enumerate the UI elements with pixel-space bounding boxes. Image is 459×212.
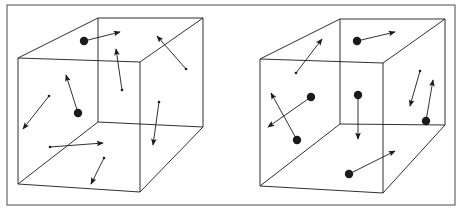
cubes-diagram [0,0,459,212]
particle-large [354,91,362,99]
particle-large [345,170,353,178]
right-cube-edge [383,125,445,193]
particle-small [48,95,51,98]
left-cube-edge [18,122,98,184]
particle-small [121,89,124,92]
velocity-arrow-icon [268,97,311,127]
velocity-arrow-icon [23,96,49,129]
particle-large [307,93,315,101]
right-cube-edge [260,19,340,59]
particle-large [353,37,361,45]
left-cube-back-face [98,18,203,127]
right-cube-back-face [340,19,445,125]
right-cube-edge [383,19,445,63]
particle-large [293,136,301,144]
particle-small [185,68,188,71]
velocity-arrow-icon [357,32,395,41]
particle-small [419,70,422,73]
particle-large [422,117,430,125]
particle-large [80,37,88,45]
velocity-arrow-icon [349,151,395,174]
velocity-arrow-icon [426,80,433,121]
velocity-arrow-icon [410,71,420,106]
velocity-arrow-icon [116,49,122,90]
particle-small [49,146,52,149]
particle-small [295,72,298,75]
velocity-arrow-icon [271,93,297,140]
velocity-arrow-icon [153,102,159,145]
left-cube-edge [140,127,203,192]
right-cube-edge [260,124,340,186]
particle-large [74,109,82,117]
velocity-arrow-icon [84,32,120,41]
velocity-arrow-icon [296,39,322,73]
figure-frame [7,5,455,205]
particle-small [103,157,106,160]
left-cube-edge [140,18,203,62]
particle-small [158,101,161,104]
velocity-arrow-icon [50,143,103,147]
velocity-arrow-icon [66,75,78,113]
velocity-arrow-icon [91,158,104,184]
diagram-figure [0,0,459,212]
left-cube-front-face [18,58,140,192]
right-cube-front-face [260,59,383,193]
velocity-arrow-icon [157,36,186,69]
